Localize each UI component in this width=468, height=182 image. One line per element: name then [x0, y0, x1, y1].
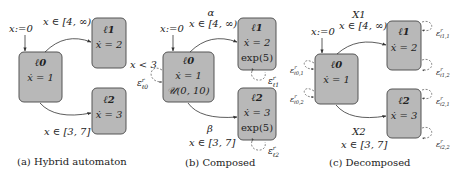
- location-l0-flow: ẋ = 1: [175, 70, 202, 81]
- location-l1-name: ℓ1: [251, 22, 262, 33]
- self-loop-l2: [251, 141, 265, 150]
- edge-l0-l2-guard: x ∈ [3, 7]: [341, 139, 387, 150]
- self-loop-l1-2: [422, 59, 432, 70]
- init-label: x:=0: [311, 26, 335, 37]
- location-l2-flow: ẋ = 3: [391, 110, 418, 121]
- self-loop-l0-1: [304, 61, 314, 69]
- edge-l0-l1-guard: x ∈ [4, ∞): [43, 16, 91, 27]
- location-l0-name: ℓ0: [331, 59, 342, 70]
- location-l1-dist: exp(5): [241, 52, 273, 63]
- panel-composed: x:=0 ℓ0 ẋ = 1 𝒰(0, 10) ℓ1 ẋ = 2 exp(5) ℓ…: [130, 7, 279, 168]
- location-l0-flow: ẋ = 1: [27, 72, 54, 83]
- self-loop-l2-1: [422, 89, 432, 98]
- edge-l0-l1-action: X1: [351, 9, 365, 20]
- location-l1-flow: ẋ = 2: [244, 37, 271, 48]
- location-l0-flow: ẋ = 1: [323, 74, 350, 85]
- self-loop-l0-label: εrℓ0: [137, 76, 148, 90]
- self-loop-l1: [251, 71, 265, 80]
- edge-l0-l1: [190, 39, 237, 52]
- edge-l0-l2-guard: x ∈ [3, 7]: [189, 137, 235, 148]
- self-loop-l2-1-label: εrℓ2,1: [436, 95, 450, 107]
- diagram-canvas: x:=0 ℓ0 ẋ = 1 ℓ1 ẋ = 2 ℓ2 ẋ = 3 x ∈ [4, …: [0, 0, 468, 182]
- self-loop-l2-label: εrℓ2: [268, 144, 279, 158]
- caption-b: (b) Composed: [185, 157, 256, 168]
- edge-l0-l2: [188, 103, 237, 117]
- caption-c: (c) Decomposed: [329, 157, 411, 168]
- panel-decomposed: x:=0 ℓ0 ẋ = 1 ℓ1 ẋ = 2 ℓ2 ẋ = 3 X1 x ∈ […: [290, 9, 450, 168]
- panel-hybrid-automaton: x:=0 ℓ0 ẋ = 1 ℓ1 ẋ = 2 ℓ2 ẋ = 3 x ∈ [4, …: [9, 16, 127, 167]
- self-loop-l2-2: [422, 127, 432, 138]
- edge-l0-l2-action: X2: [351, 126, 365, 137]
- location-l2-name: ℓ2: [398, 95, 409, 106]
- location-l0-name: ℓ0: [183, 55, 194, 66]
- edge-l0-l1-guard: x ∈ [4, ∞): [189, 18, 237, 29]
- init-label: x:=0: [9, 23, 33, 34]
- self-loop-l1-1: [422, 21, 432, 30]
- location-l2-flow: ẋ = 3: [96, 109, 123, 120]
- init-label: x:=0: [160, 23, 184, 34]
- self-loop-l1-2-label: εrℓ1,2: [436, 66, 450, 78]
- self-loop-l1-label: εrℓ1: [268, 74, 279, 88]
- edge-l0-l1: [45, 39, 91, 52]
- location-l1-name: ℓ1: [398, 26, 409, 37]
- location-l1-flow: ẋ = 2: [391, 42, 418, 53]
- location-l2-flow: ẋ = 3: [244, 107, 271, 118]
- location-l1-flow: ẋ = 2: [96, 39, 123, 50]
- location-l1-name: ℓ1: [103, 24, 114, 35]
- self-loop-l0-2-label: εrℓ0,2: [290, 93, 304, 105]
- location-l0-name: ℓ0: [35, 57, 46, 68]
- caption-a: (a) Hybrid automaton: [17, 156, 127, 167]
- edge-l0-l1: [337, 42, 386, 54]
- self-loop-l0-2: [304, 89, 314, 97]
- self-loop-l0: [151, 68, 162, 82]
- edge-l0-l2-action: β: [206, 123, 213, 134]
- self-loop-l0-1-label: εrℓ0,1: [290, 64, 304, 76]
- location-l2-dist: exp(5): [241, 122, 273, 133]
- self-loop-l1-1-label: εrℓ1,1: [436, 27, 450, 39]
- self-loop-l2-2-label: εrℓ2,2: [436, 138, 450, 150]
- location-l2-name: ℓ2: [251, 92, 262, 103]
- edge-l0-l1-guard: x ∈ [4, ∞): [339, 20, 387, 31]
- edge-l0-l2: [40, 103, 91, 115]
- edge-l0-l2-guard: x ∈ [3, 7]: [44, 126, 90, 137]
- location-l2-name: ℓ2: [103, 94, 114, 105]
- location-l0-dist: 𝒰(0, 10): [167, 85, 209, 96]
- edge-l0-l1-action: α: [208, 7, 215, 18]
- edge-l0-l2: [336, 105, 386, 118]
- self-loop-l0-guard: x < 3: [130, 59, 157, 70]
